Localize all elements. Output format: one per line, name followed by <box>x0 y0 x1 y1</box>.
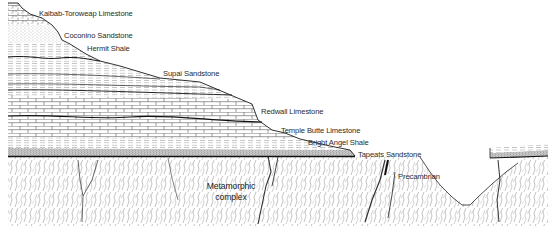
label-coconino-sandstone: Coconino Sandstone <box>64 32 133 40</box>
label-redwall-limestone: Redwall Limestone <box>261 108 323 116</box>
metamorphic-basement <box>8 154 548 226</box>
label-bright-angel-shale: Bright Angel Shale <box>308 139 369 147</box>
coconino-sandstone <box>8 24 70 44</box>
label-hermit-shale: Hermit Shale <box>87 45 130 53</box>
label-kaibab-toroweap-limestone: Kaibab-Toroweap Limestone <box>39 10 133 18</box>
label-complex: complex <box>203 193 259 202</box>
supai-sandstone <box>8 60 240 99</box>
label-temple-butte-limestone: Temple Butte Limestone <box>281 127 360 135</box>
label-metamorphic: Metamorphic <box>203 182 259 191</box>
label-supai-sandstone: Supai Sandstone <box>163 70 219 78</box>
label-tapeats-sandstone: Tapeats Sandstone <box>358 151 421 159</box>
label-precambrian: Precambrian <box>398 173 440 181</box>
cross-section-diagram: Kaibab-Toroweap Limestone Coconino Sands… <box>0 0 552 241</box>
